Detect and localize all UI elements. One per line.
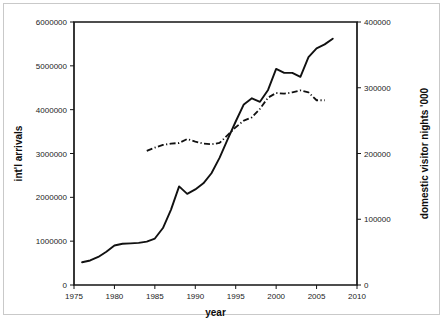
x-tick-label: 1995 <box>227 292 245 301</box>
x-axis-title: year <box>205 307 226 318</box>
series-line-1 <box>82 39 333 263</box>
y-tick-label-right: 400000 <box>364 18 391 27</box>
y-axis-title-left: int'l arrivals <box>13 125 24 181</box>
y-tick-label-right: 200000 <box>364 150 391 159</box>
y-tick-label-left: 3000000 <box>36 150 68 159</box>
dual-axis-line-chart: 0100000020000003000000400000050000006000… <box>0 0 443 336</box>
x-tick-label: 1975 <box>65 292 83 301</box>
x-tick-label: 1980 <box>106 292 124 301</box>
y-tick-label-left: 5000000 <box>36 62 68 71</box>
y-axis-title-right: domestic visitor nights '000 <box>419 87 430 219</box>
chart-figure: 0100000020000003000000400000050000006000… <box>0 0 443 336</box>
x-tick-label: 2005 <box>308 292 326 301</box>
x-tick-label: 2010 <box>348 292 366 301</box>
y-tick-label-left: 4000000 <box>36 106 68 115</box>
x-tick-label: 1990 <box>186 292 204 301</box>
y-tick-label-left: 1000000 <box>36 237 68 246</box>
y-tick-label-right: 0 <box>364 281 369 290</box>
y-tick-label-left: 2000000 <box>36 193 68 202</box>
y-tick-label-left: 6000000 <box>36 18 68 27</box>
x-tick-label: 2000 <box>267 292 285 301</box>
y-tick-label-right: 100000 <box>364 215 391 224</box>
y-tick-label-left: 0 <box>63 281 68 290</box>
y-tick-label-right: 300000 <box>364 84 391 93</box>
x-tick-label: 1985 <box>146 292 164 301</box>
